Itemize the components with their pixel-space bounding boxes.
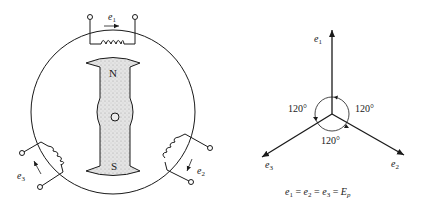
three-phase-generator-figure: N S e1 e3 xyxy=(0,0,421,211)
phasor-e2-label: e2 xyxy=(391,158,399,171)
rotor-shaft xyxy=(111,113,119,121)
north-pole-label: N xyxy=(109,67,117,79)
coil-e2: e2 xyxy=(163,134,213,185)
direction-arrow-icon xyxy=(187,159,192,171)
terminal-icon xyxy=(20,151,25,156)
terminal-icon xyxy=(189,180,194,185)
phasor-e2 xyxy=(332,114,404,155)
terminal-icon xyxy=(208,146,213,151)
e3-label: e3 xyxy=(17,170,25,183)
angle-label-bottom: 120° xyxy=(321,135,340,146)
coil-e1: e1 xyxy=(88,11,138,44)
generator-diagram: N S e1 e3 xyxy=(17,11,213,194)
direction-arrow-icon xyxy=(34,161,41,174)
phasor-e3-label: e3 xyxy=(265,159,273,172)
terminal-icon xyxy=(88,15,93,20)
angle-arrow-icon xyxy=(344,124,349,128)
e2-label: e2 xyxy=(197,165,205,178)
south-pole-label: S xyxy=(111,160,117,172)
angle-arrow-icon xyxy=(313,117,318,121)
terminal-icon xyxy=(38,185,43,190)
terminal-icon xyxy=(133,15,138,20)
phasor-e1-label: e1 xyxy=(314,33,322,46)
equation: e1 = e2 = e3 = Ep xyxy=(285,186,351,199)
angle-label-left: 120° xyxy=(288,103,307,114)
e1-label: e1 xyxy=(108,11,116,24)
phasor-diagram: 120° 120° 120° e1 e2 e3 e1 = e2 = e3 = E… xyxy=(262,30,404,199)
angle-arrow-icon xyxy=(334,96,338,100)
angle-label-right: 120° xyxy=(355,103,374,114)
